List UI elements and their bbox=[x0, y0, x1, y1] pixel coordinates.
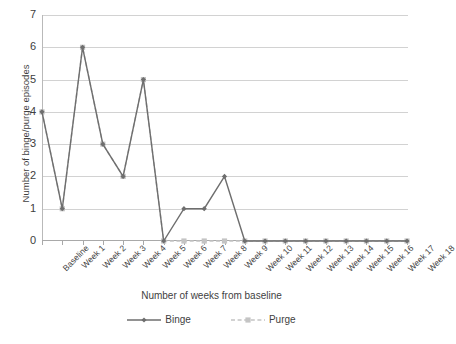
legend-key-purge bbox=[231, 315, 265, 325]
legend-item-purge[interactable]: Purge bbox=[231, 315, 296, 325]
y-axis-tick-label: 4 bbox=[14, 106, 36, 117]
x-axis-tick-labels: BaselineWeek 1Week 2Week 3Week 4Week 5We… bbox=[42, 243, 408, 289]
chart-legend: BingePurge bbox=[0, 315, 423, 325]
legend-label: Binge bbox=[165, 315, 191, 325]
series-purge bbox=[39, 45, 409, 244]
y-axis-tick-label: 7 bbox=[14, 9, 36, 20]
y-axis-tick-label: 2 bbox=[14, 170, 36, 181]
y-axis-tick-label: 3 bbox=[14, 138, 36, 149]
series-binge bbox=[39, 45, 409, 244]
x-axis-title: Number of weeks from baseline bbox=[0, 290, 423, 301]
y-axis-title: Number of binge/purge episodes bbox=[20, 19, 31, 249]
series-line bbox=[42, 47, 407, 241]
plot-area bbox=[42, 15, 408, 241]
series-plot bbox=[42, 15, 408, 241]
legend-key-binge bbox=[127, 315, 161, 325]
y-axis-tick-label: 1 bbox=[14, 203, 36, 214]
legend-item-binge[interactable]: Binge bbox=[127, 315, 191, 325]
series-line bbox=[42, 47, 407, 241]
y-axis-tick-label: 0 bbox=[14, 235, 36, 246]
y-axis-tick-label: 6 bbox=[14, 41, 36, 52]
legend-label: Purge bbox=[269, 315, 296, 325]
y-axis-tick-label: 5 bbox=[14, 74, 36, 85]
